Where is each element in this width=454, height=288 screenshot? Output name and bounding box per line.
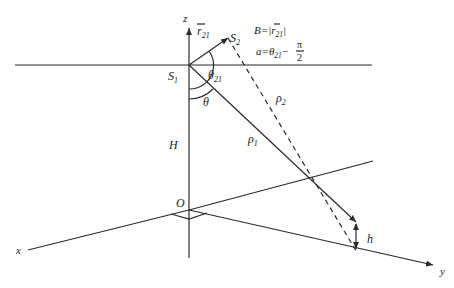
oblique-ground-line bbox=[189, 161, 373, 210]
origin-label: O bbox=[176, 196, 185, 210]
rho2-label: ρ2 bbox=[275, 91, 286, 107]
geometry-diagram: z x y O h S1 S2 r21 θ21 θ ρ2 ρ1 H B=|r21… bbox=[0, 0, 454, 288]
y-axis bbox=[189, 210, 433, 265]
formula-a: a=θ21− bbox=[256, 45, 289, 60]
formula-a-pi: π bbox=[297, 39, 302, 50]
s2-label: S2 bbox=[230, 31, 240, 47]
z-axis-label: z bbox=[182, 12, 188, 24]
x-axis bbox=[28, 210, 189, 250]
formula-a-denominator: 2 bbox=[297, 52, 302, 63]
rho1-line bbox=[189, 65, 356, 222]
h-label: h bbox=[367, 232, 373, 246]
r21-label: r21 bbox=[197, 24, 210, 40]
theta-label: θ bbox=[203, 95, 209, 109]
rho1-label: ρ1 bbox=[247, 132, 258, 148]
theta-arc bbox=[189, 89, 213, 99]
formula-B: B=|r21| bbox=[254, 24, 286, 39]
theta21-label: θ21 bbox=[208, 68, 222, 84]
y-axis-label: y bbox=[439, 265, 445, 277]
H-label: H bbox=[168, 138, 179, 152]
s1-label: S1 bbox=[168, 69, 178, 85]
r21-vector bbox=[189, 38, 228, 65]
x-axis-label: x bbox=[15, 244, 21, 256]
rho2-line bbox=[228, 38, 358, 254]
